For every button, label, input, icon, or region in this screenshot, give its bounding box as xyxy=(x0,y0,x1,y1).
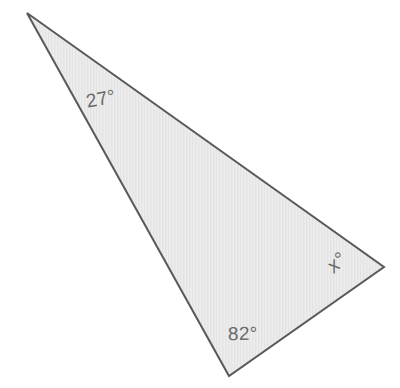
triangle-diagram: 27° 82° x° xyxy=(0,0,400,388)
triangle-shape xyxy=(0,0,400,388)
angle-label-bottom: 82° xyxy=(228,324,258,344)
triangle-polygon xyxy=(27,13,384,376)
